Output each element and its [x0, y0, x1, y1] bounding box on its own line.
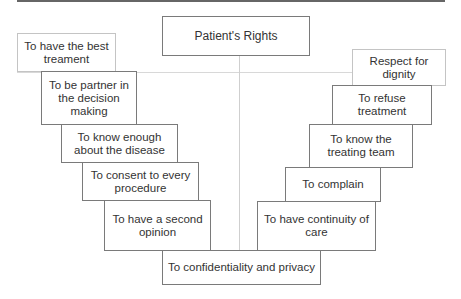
node-partner-decision: To be partner in the decision making	[41, 71, 137, 125]
node-consent-procedure: To consent to every procedure	[82, 162, 199, 201]
top-rule	[17, 0, 445, 2]
node-label: To be partner in the decision making	[46, 79, 132, 118]
node-label: Respect for dignity	[357, 55, 441, 81]
root-node-label: Patient's Rights	[195, 30, 278, 43]
node-label: To have a second opinion	[109, 213, 206, 239]
node-second-opinion: To have a second opinion	[104, 200, 211, 251]
node-continuity-care: To have continuity of care	[257, 201, 376, 251]
node-label: To have the best treament	[22, 40, 111, 66]
node-complain: To complain	[285, 167, 381, 202]
node-label: To confidentiality and privacy	[168, 261, 315, 274]
node-respect-dignity: Respect for dignity	[352, 49, 446, 86]
node-label: To know the treating team	[314, 133, 408, 159]
node-know-treating-team: To know the treating team	[309, 124, 413, 168]
node-label: To complain	[302, 178, 363, 191]
node-best-treatment: To have the best treament	[17, 33, 116, 72]
vertical-connector	[239, 55, 240, 250]
node-know-disease: To know enough about the disease	[61, 124, 178, 163]
node-label: To have continuity of care	[262, 213, 371, 239]
node-label: To know enough about the disease	[66, 131, 173, 157]
node-label: To consent to every procedure	[87, 169, 194, 195]
node-label: To refuse treatment	[337, 92, 427, 118]
node-refuse-treatment: To refuse treatment	[332, 85, 432, 125]
node-confidentiality-privacy: To confidentiality and privacy	[162, 250, 321, 285]
root-node-patients-rights: Patient's Rights	[162, 16, 310, 56]
